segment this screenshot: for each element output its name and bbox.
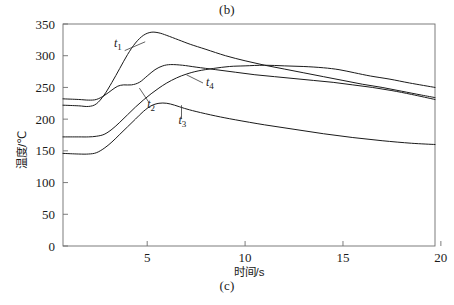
line-chart: 050100150200250300350 5101520 t1t2t3t4 温…: [0, 0, 454, 305]
leader-line-4: [186, 75, 203, 83]
leader-line-2: [139, 88, 149, 103]
curve-annotations: t1t2t3t4: [114, 36, 214, 129]
x-tick-label: 10: [239, 250, 252, 265]
curve-label-1: t1: [114, 36, 122, 52]
y-tick-label: 300: [36, 48, 56, 63]
curve-t3: [63, 103, 435, 154]
x-tick-label: 20: [434, 250, 447, 265]
curve-label-3: t3: [179, 113, 187, 129]
y-tick-label: 100: [36, 175, 56, 190]
curve-label-2: t2: [147, 97, 155, 113]
curve-label-4: t4: [206, 75, 214, 91]
x-axis-title: 时间/s: [234, 266, 265, 278]
y-tick-label: 0: [49, 239, 56, 254]
x-axis-ticks: 5101520: [144, 241, 447, 265]
figure-container: (b) 050100150200250300350 5101520 t1t2t3…: [0, 0, 454, 305]
y-tick-label: 200: [36, 112, 56, 127]
x-tick-label: 15: [336, 250, 349, 265]
figure-caption-top: (b): [0, 2, 454, 18]
y-tick-label: 350: [36, 17, 56, 32]
y-axis-title: 温度/℃: [15, 131, 28, 169]
curve-t4: [63, 65, 435, 137]
y-tick-label: 250: [36, 80, 56, 95]
figure-caption-bottom: (c): [0, 278, 454, 294]
y-tick-label: 50: [42, 207, 55, 222]
y-tick-label: 150: [36, 143, 56, 158]
x-tick-label: 5: [144, 250, 151, 265]
